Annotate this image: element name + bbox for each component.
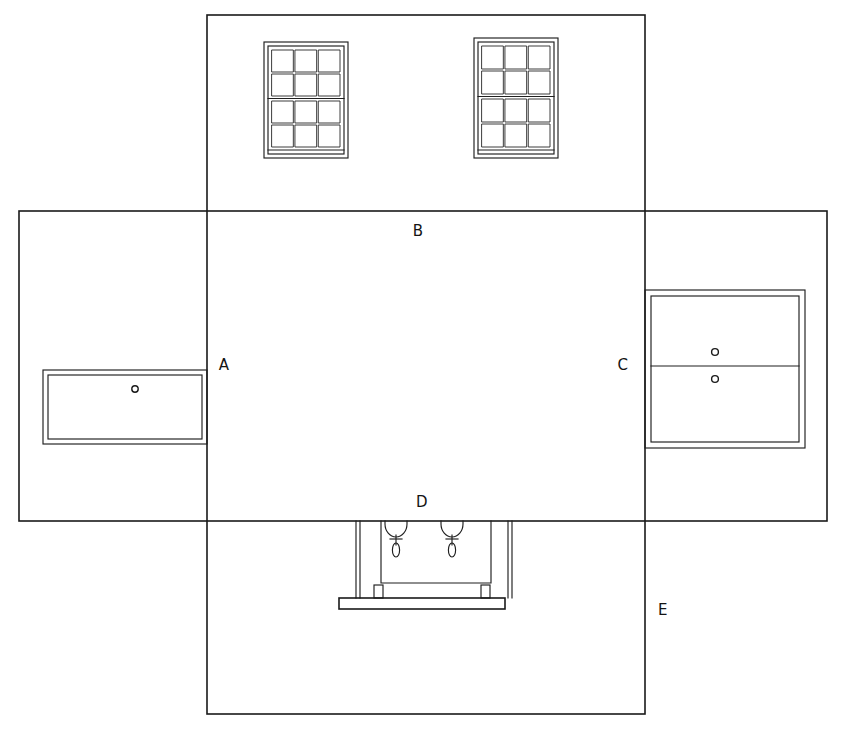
technical-drawing-canvas: ABCDE	[0, 0, 842, 730]
panel-label-d: D	[416, 493, 428, 511]
panel-label-c: C	[618, 356, 629, 374]
right-cabinet-panel-knob-icon[interactable]	[712, 376, 719, 383]
panel-label-b: B	[413, 222, 424, 240]
left-cabinet-panel-inner-edge	[48, 375, 202, 439]
right-cabinet-panel-knob-icon[interactable]	[712, 349, 719, 356]
drawing-svg: ABCDE	[0, 0, 842, 730]
panel-label-a: A	[219, 356, 230, 374]
left-cabinet-panel-knob-icon[interactable]	[132, 386, 138, 392]
right-cabinet-panel-outer-edge	[645, 290, 805, 448]
right-cabinet-panel	[645, 290, 805, 448]
left-cabinet-panel-outer-edge	[43, 370, 207, 444]
left-cabinet-panel	[43, 370, 207, 444]
panel-label-e: E	[658, 601, 668, 619]
right-cabinet-panel-inner-edge	[651, 296, 799, 442]
